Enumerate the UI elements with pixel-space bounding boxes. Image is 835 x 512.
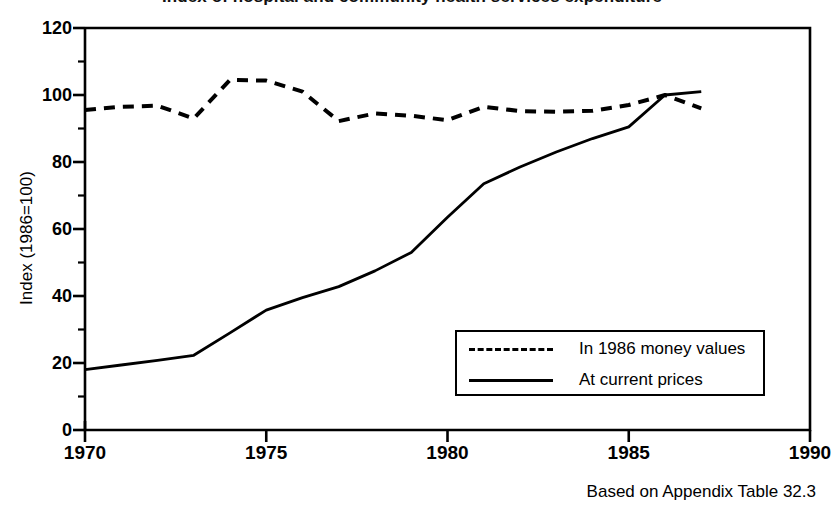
x-tick-label: 1975 [206, 443, 326, 462]
y-tick-label: 20 [2, 354, 72, 372]
y-tick-label: 80 [2, 153, 72, 171]
legend-swatch-dashed-icon [469, 342, 553, 356]
x-tick-label: 1970 [25, 443, 145, 462]
chart-legend: In 1986 money values At current prices [455, 330, 765, 396]
legend-swatch-solid-icon [469, 373, 553, 387]
x-tick-label: 1985 [569, 443, 689, 462]
y-tick-label: 40 [2, 287, 72, 305]
legend-entry-in-1986-money-values: In 1986 money values [457, 333, 763, 364]
y-tick-label: 100 [2, 86, 72, 104]
data-series-layer [85, 80, 701, 370]
x-axis-ticks [85, 421, 810, 442]
y-tick-label: 60 [2, 220, 72, 238]
x-tick-label: 1990 [750, 443, 835, 462]
y-axis-major-ticks [73, 28, 85, 430]
series-line [85, 92, 701, 370]
legend-label: At current prices [579, 370, 703, 390]
series-line [85, 80, 701, 121]
y-tick-label: 0 [2, 421, 72, 439]
source-caption: Based on Appendix Table 32.3 [587, 482, 816, 502]
y-tick-label: 120 [2, 19, 72, 37]
legend-label: In 1986 money values [579, 339, 745, 359]
legend-entry-at-current-prices: At current prices [457, 364, 763, 395]
x-tick-label: 1980 [388, 443, 508, 462]
